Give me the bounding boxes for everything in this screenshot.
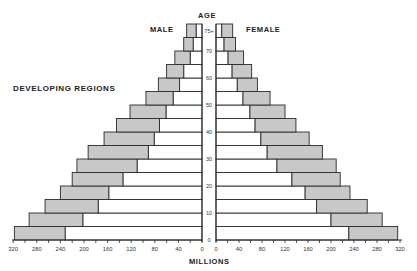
female-bar-inner <box>216 146 267 160</box>
female-bar-shaded <box>237 78 257 92</box>
x-tick-label-male: 80 <box>152 246 158 252</box>
female-bar-inner <box>216 92 243 106</box>
male-bar-shaded <box>187 24 196 38</box>
female-bar-inner <box>216 65 232 79</box>
x-tick-label-male: 280 <box>32 246 42 252</box>
male-bar-inner <box>160 119 202 133</box>
female-bar-shaded <box>349 227 398 241</box>
age-tick-label: 20 <box>206 183 212 189</box>
x-tick-label-female: 40 <box>236 246 242 252</box>
age-tick-label: 75+ <box>204 28 213 34</box>
age-axis-label: AGE <box>198 11 216 20</box>
female-bar-shaded <box>250 105 285 119</box>
female-bar-inner <box>216 132 261 146</box>
male-bar-inner <box>193 38 202 52</box>
male-bar-inner <box>123 173 202 187</box>
female-bar-inner <box>216 227 349 241</box>
female-bar-inner <box>216 78 237 92</box>
male-bar-inner <box>180 78 202 92</box>
female-bar-shaded <box>261 132 309 146</box>
x-tick-label-female: 160 <box>303 246 313 252</box>
male-bar-shaded <box>175 51 190 65</box>
age-tick-label: 60 <box>206 75 212 81</box>
female-bar-shaded <box>243 92 270 106</box>
male-bar-inner <box>83 213 202 227</box>
female-bar-shaded <box>267 146 322 160</box>
x-axis-label: MILLIONS <box>189 257 230 266</box>
male-bar-shaded <box>184 38 193 52</box>
x-tick-label-female: 240 <box>349 246 359 252</box>
age-tick-label: 10 <box>206 210 212 216</box>
female-bar-shaded <box>222 24 233 38</box>
male-bar-inner <box>166 105 202 119</box>
female-bar-shaded <box>277 159 336 173</box>
female-label: FEMALE <box>246 25 280 34</box>
x-tick-label-male: 320 <box>8 246 18 252</box>
x-tick-label-female: 200 <box>326 246 336 252</box>
x-tick-label-male: 240 <box>56 246 66 252</box>
female-bar-inner <box>216 105 250 119</box>
region-title: DEVELOPING REGIONS <box>13 84 115 93</box>
x-tick-label-male: 200 <box>79 246 89 252</box>
female-bar-shaded <box>224 38 236 52</box>
male-bar-shaded <box>45 200 98 214</box>
male-bar-inner <box>196 24 202 38</box>
male-bar-inner <box>184 65 202 79</box>
female-bar-inner <box>216 213 331 227</box>
male-bar-shaded <box>14 227 65 241</box>
female-bar-shaded <box>331 213 382 227</box>
x-tick-label-male: 0 <box>200 246 203 252</box>
x-tick-label-female: 280 <box>372 246 382 252</box>
female-bar-inner <box>216 200 317 214</box>
male-bar-inner <box>148 146 202 160</box>
x-tick-label-male: 40 <box>175 246 181 252</box>
age-tick-label: 40 <box>206 129 212 135</box>
x-tick-label-male: 120 <box>126 246 136 252</box>
male-bar-inner <box>65 227 202 241</box>
x-tick-label-male: 160 <box>103 246 113 252</box>
female-bar-inner <box>216 119 255 133</box>
male-bar-shaded <box>167 65 184 79</box>
female-bar-inner <box>216 51 228 65</box>
male-bar-shaded <box>130 105 166 119</box>
male-bar-shaded <box>158 78 179 92</box>
female-bar-inner <box>216 38 224 52</box>
age-tick-label: 0 <box>207 237 210 243</box>
female-bar-shaded <box>232 65 252 79</box>
x-tick-label-female: 320 <box>395 246 405 252</box>
male-bar-shaded <box>116 119 159 133</box>
female-bar-inner <box>216 173 292 187</box>
male-label: MALE <box>150 25 174 34</box>
female-bar-shaded <box>317 200 368 214</box>
age-tick-label: 70 <box>206 48 212 54</box>
age-tick-label: 50 <box>206 102 212 108</box>
male-bar-shaded <box>88 146 148 160</box>
age-tick-label: 30 <box>206 156 212 162</box>
female-bar-shaded <box>228 51 244 65</box>
male-bar-inner <box>98 200 202 214</box>
male-bar-shaded <box>60 186 108 200</box>
female-bar-shaded <box>255 119 296 133</box>
female-bar-shaded <box>305 186 350 200</box>
population-pyramid-chart: 01020304050607075+3202802402001601208040… <box>0 0 417 271</box>
male-bar-shaded <box>29 213 83 227</box>
male-bar-shaded <box>146 92 173 106</box>
male-bar-inner <box>190 51 202 65</box>
male-bar-inner <box>154 132 202 146</box>
female-bar-inner <box>216 159 277 173</box>
male-bar-shaded <box>72 173 123 187</box>
female-bar-inner <box>216 24 222 38</box>
x-tick-label-female: 0 <box>214 246 217 252</box>
male-bar-inner <box>137 159 202 173</box>
male-bar-inner <box>109 186 202 200</box>
x-tick-label-female: 80 <box>259 246 265 252</box>
male-bar-shaded <box>77 159 137 173</box>
male-bar-shaded <box>104 132 154 146</box>
female-bar-inner <box>216 186 305 200</box>
female-bar-shaded <box>292 173 340 187</box>
male-bar-inner <box>173 92 202 106</box>
x-tick-label-female: 120 <box>280 246 290 252</box>
